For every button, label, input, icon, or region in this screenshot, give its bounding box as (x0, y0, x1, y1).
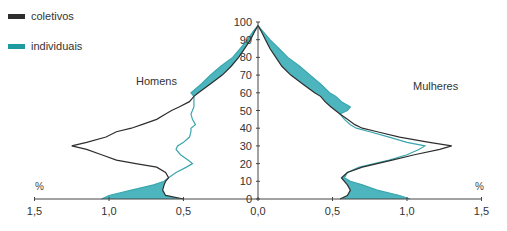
y-tick-label: 70 (240, 69, 252, 81)
y-tick-label: 100 (234, 16, 252, 28)
x-tick-label: 0,5 (325, 205, 340, 217)
axes: 1,51,00,50,00,51,01,50102030405060708090… (27, 16, 489, 217)
unit-label-right: % (475, 181, 484, 192)
legend-label-individuais: individuais (31, 40, 82, 52)
difference-fill-areas (102, 26, 410, 199)
x-tick-label: 0,0 (250, 205, 265, 217)
line-coletivos-homens (72, 26, 258, 199)
x-tick-label: 1,0 (399, 205, 414, 217)
x-tick-label: 1,5 (27, 205, 42, 217)
y-tick-label: 0 (246, 193, 252, 205)
x-tick-label: 1,0 (101, 205, 116, 217)
y-tick-label: 80 (240, 51, 252, 63)
y-tick-label: 40 (240, 122, 252, 134)
legend-item-individuais: individuais (8, 40, 82, 52)
unit-label-left: % (35, 181, 44, 192)
y-tick-label: 10 (240, 175, 252, 187)
side-label-mulheres: Mulheres (413, 80, 458, 92)
legend-swatch-coletivos (8, 14, 25, 19)
series-lines (72, 26, 452, 199)
legend-item-coletivos: coletivos (8, 10, 82, 22)
y-tick-label: 60 (240, 87, 252, 99)
legend-swatch-individuais (8, 44, 25, 49)
side-label-homens: Homens (136, 75, 177, 87)
x-tick-label: 1,5 (474, 205, 489, 217)
legend-label-coletivos: coletivos (31, 10, 74, 22)
line-individuais-homens (102, 26, 258, 199)
line-coletivos-mulheres (258, 26, 452, 199)
y-tick-label: 50 (240, 105, 252, 117)
x-tick-label: 0,5 (176, 205, 191, 217)
legend: coletivos individuais (8, 10, 82, 70)
y-tick-label: 90 (240, 34, 252, 46)
y-tick-label: 30 (240, 140, 252, 152)
y-tick-label: 20 (240, 158, 252, 170)
fill-individuais-homens (102, 178, 184, 199)
